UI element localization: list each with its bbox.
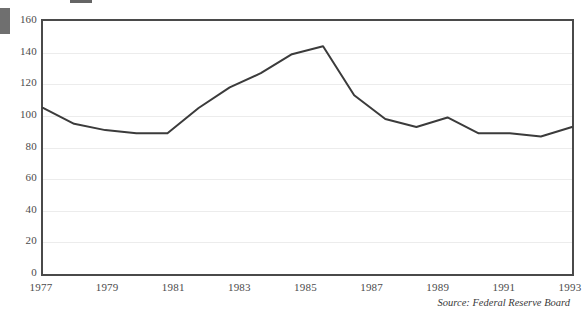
y-axis-tick-label: 60: [3, 172, 37, 183]
x-axis-tick-label: 1993: [559, 281, 582, 293]
y-axis-tick-label: 120: [3, 77, 37, 88]
y-axis-tick-label: 80: [3, 141, 37, 152]
x-axis-tick-label: 1989: [426, 281, 449, 293]
line-series-svg: [43, 21, 572, 274]
data-line: [43, 46, 572, 136]
cut-off-title-remnant: [70, 0, 92, 3]
x-axis-tick-labels: 197719791981198319851987198919911993: [41, 281, 570, 297]
chart-page: 020406080100120140160 197719791981198319…: [0, 0, 588, 315]
y-axis-tick-label: 160: [3, 14, 37, 25]
y-axis-tick-label: 0: [3, 267, 37, 278]
source-note: Source: Federal Reserve Board: [438, 297, 570, 309]
y-axis-tick-labels: 020406080100120140160: [0, 19, 37, 272]
x-axis-tick-label: 1991: [492, 281, 515, 293]
x-axis-tick-label: 1977: [30, 281, 53, 293]
x-axis-tick-label: 1983: [228, 281, 251, 293]
y-axis-tick-label: 20: [3, 235, 37, 246]
y-axis-tick-label: 40: [3, 204, 37, 215]
y-axis-tick-label: 140: [3, 46, 37, 57]
y-axis-tick-label: 100: [3, 109, 37, 120]
x-axis-tick-label: 1987: [360, 281, 383, 293]
x-axis-tick-label: 1985: [294, 281, 317, 293]
x-axis-tick-label: 1979: [96, 281, 119, 293]
x-axis-tick-label: 1981: [162, 281, 185, 293]
plot-area: [41, 19, 574, 276]
